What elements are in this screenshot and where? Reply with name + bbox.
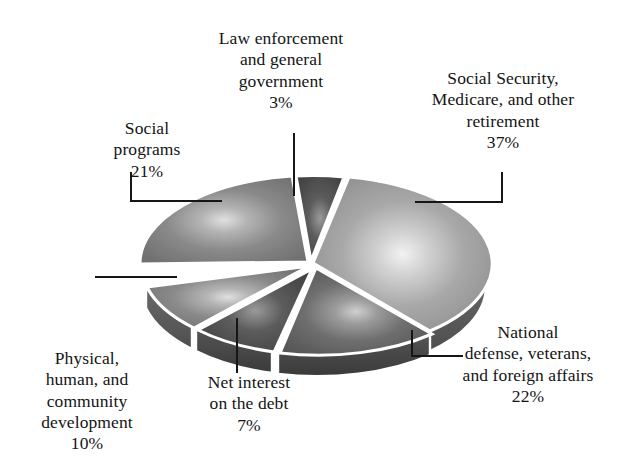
slice-label-physical: Physical, human, and community developme… [2, 348, 172, 455]
slice-social-programs[interactable] [140, 176, 308, 264]
slice-label-national-defense: National defense, veterans, and foreign … [437, 322, 619, 407]
leader-line-social-security-vertical [501, 172, 503, 203]
leader-line-social-programs-horizontal [130, 200, 222, 202]
leader-line-net-interest [236, 318, 238, 373]
slice-label-law-enforcement: Law enforcement and general government 3… [190, 28, 372, 113]
leader-line-social-security-horizontal [415, 201, 503, 203]
pie-chart-figure: Law enforcement and general government 3… [0, 0, 622, 466]
slice-label-social-programs: Social programs 21% [62, 118, 232, 182]
leader-line-physical [95, 276, 177, 278]
slice-label-social-security: Social Security, Medicare, and other ret… [405, 68, 601, 153]
slice-label-net-interest: Net interest on the debt 7% [163, 372, 335, 436]
leader-line-law-enforcement [293, 133, 295, 196]
leader-line-national-defense-vertical [411, 330, 413, 357]
